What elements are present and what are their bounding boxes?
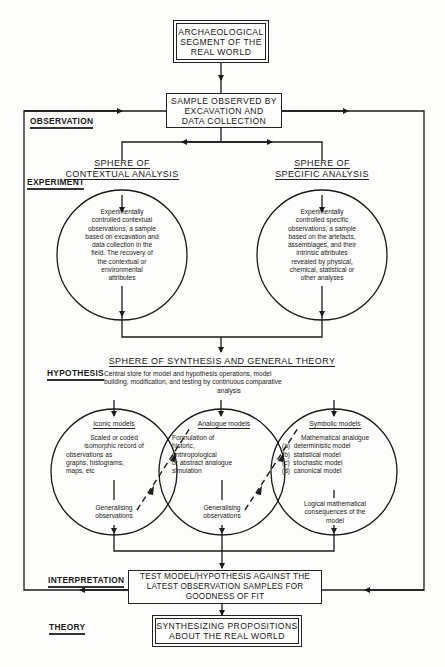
symbolic-models-text: Symbolic models Mathematical analogue (a… — [282, 420, 388, 475]
specific-analysis-text: Experimentally controlled specific obser… — [262, 208, 382, 283]
test-model-box: TEST MODEL/HYPOTHESIS AGAINST THE LATEST… — [128, 570, 322, 604]
stage-label-interpretation: INTERPRETATION — [48, 576, 124, 588]
contextual-analysis-text: Experimentally controlled contextual obs… — [62, 208, 182, 283]
merge-to-test — [114, 533, 334, 551]
stage-label-observation: OBSERVATION — [30, 117, 93, 129]
synthesis-heading: SPHERE OF SYNTHESIS AND GENERAL THEORY — [100, 356, 344, 367]
iconic-models-footer: Generalising observations — [74, 504, 154, 521]
iconic-models-text: Iconic models Scaled or coded isomorphic… — [64, 420, 164, 475]
symbolic-models-title: Symbolic models — [309, 420, 360, 429]
stage-label-hypothesis: HYPOTHESIS — [47, 369, 104, 381]
analogue-models-title: Analogue models — [198, 420, 251, 429]
analogue-models-footer: Generalising observations — [182, 504, 262, 521]
specific-analysis-heading: SPHERE OF SPECIFIC ANALYSIS — [252, 158, 392, 180]
merge-to-synthesis — [122, 316, 322, 337]
sample-observed-box: SAMPLE OBSERVED BY EXCAVATION AND DATA C… — [166, 93, 282, 128]
synthesizing-propositions-box: SYNTHESIZING PROPOSITIONS ABOUT THE REAL… — [155, 618, 299, 644]
symbolic-models-footer: Logical mathematical consequences of the… — [284, 500, 386, 525]
dashed-arrowhead — [256, 485, 262, 495]
real-world-box: ARCHAEOLOGICAL SEGMENT OF THE REAL WORLD — [176, 23, 266, 60]
analogue-models-text: Analogue models Formulation of historic,… — [172, 420, 276, 475]
stage-label-theory: THEORY — [49, 623, 85, 635]
dashed-arrowhead — [148, 485, 154, 495]
iconic-models-title: Iconic models — [93, 420, 135, 429]
synthesis-text: Central store for model and hypothesis o… — [104, 370, 354, 395]
contextual-analysis-heading: SPHERE OF CONTEXTUAL ANALYSIS — [52, 158, 192, 180]
